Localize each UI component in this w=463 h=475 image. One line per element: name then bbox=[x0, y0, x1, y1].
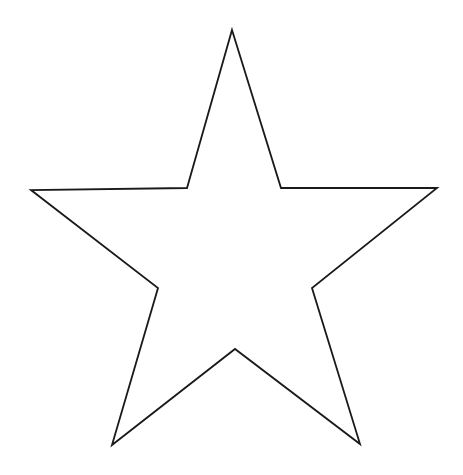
star-outline bbox=[31, 30, 437, 445]
star-shape-svg bbox=[0, 0, 463, 475]
drawing-canvas bbox=[0, 0, 463, 475]
